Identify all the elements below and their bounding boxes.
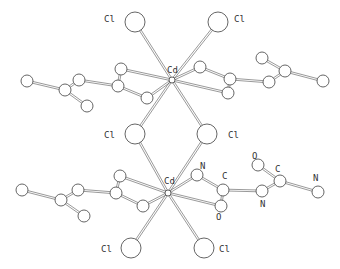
label-o1: O [216,212,221,222]
bonds-layer [22,21,323,248]
chlorine-atom [125,12,145,32]
ligand-atom [81,100,93,112]
ligand-atom [224,73,236,85]
bond [173,23,219,81]
chlorine-atom [194,238,214,258]
ligand-atom [256,185,268,197]
ligand-atom [312,186,324,198]
bond [120,177,168,194]
bond [168,194,221,207]
atoms-layer [16,12,329,258]
chlorine-atom [125,124,145,144]
label-cl-top-left: Cl [104,14,115,24]
label-cl-bridge-left: Cl [104,130,115,140]
ligand-atom [72,184,84,196]
ligand-atom [115,63,127,75]
ligand-atom [279,65,291,77]
label-cd-top: Cd [167,65,178,75]
label-o2: O [252,151,257,161]
ligand-atom [222,87,234,99]
label-n3: N [313,173,318,183]
ligand-atom [137,200,149,212]
label-c2: C [275,164,280,174]
label-cl-bottom-right: Cl [219,244,230,254]
chlorine-atom [121,238,141,258]
ligand-atom [263,76,275,88]
ligand-atom [274,175,286,187]
bond [168,192,221,205]
ligand-atom [317,75,329,87]
label-cd-bottom: Cd [164,176,175,186]
ligand-atom [16,184,28,196]
label-n1: N [200,161,205,171]
ligand-atom [114,170,126,182]
chlorine-atom [208,12,228,32]
cadmium-atom [165,190,171,196]
ligand-atom [110,187,122,199]
chlorine-atom [197,124,217,144]
molecular-structure-diagram: Cl Cl Cd Cl Cl Cd N C O N O C N Cl Cl [0,0,340,269]
bond [120,175,168,192]
ligand-atom [21,75,33,87]
ligand-atom [59,84,71,96]
ligand-atom [217,184,229,196]
label-cl-bridge-right: Cl [228,130,239,140]
bond [172,81,228,94]
ligand-atom [194,61,206,73]
ligand-atom [78,210,90,222]
label-c1: C [222,171,227,181]
ligand-atom [55,194,67,206]
bond [172,79,228,92]
cadmium-atom [169,77,175,83]
label-cl-bottom-left: Cl [101,244,112,254]
ligand-atom [73,74,85,86]
label-cl-top-right: Cl [234,14,245,24]
ligand-atom [112,80,124,92]
bond [121,70,172,81]
ligand-atom [215,200,227,212]
label-n2: N [260,199,265,209]
ligand-atom [141,92,153,104]
ligand-atom [256,52,268,64]
